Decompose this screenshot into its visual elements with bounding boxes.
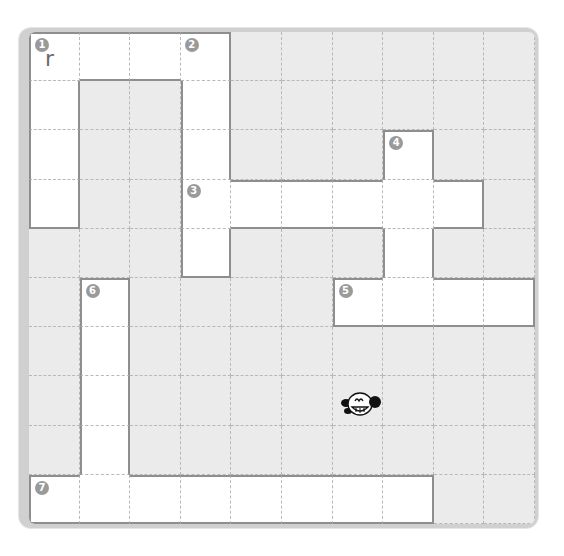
grid-cell-blocked <box>130 426 181 475</box>
grid-cell-blocked <box>282 376 333 425</box>
grid-cell-blocked <box>80 229 131 278</box>
grid-cell-blocked <box>383 376 434 425</box>
grid-cell-open[interactable] <box>29 81 80 130</box>
grid-cell-blocked <box>231 32 282 81</box>
grid-cell-blocked <box>231 327 282 376</box>
grid-cell-blocked <box>181 376 232 425</box>
grid-cell-open[interactable] <box>181 229 232 278</box>
grid-cell-open[interactable] <box>130 475 181 524</box>
grid-cell-blocked <box>333 81 384 130</box>
grid-cell-blocked <box>383 32 434 81</box>
grid-cell-blocked <box>130 376 181 425</box>
grid-cell-open[interactable]: 6 <box>80 278 131 327</box>
grid-cell-open[interactable] <box>80 475 131 524</box>
grid-cell-open[interactable] <box>282 180 333 229</box>
clue-number-badge: 2 <box>185 38 199 52</box>
grid-cell-blocked <box>29 426 80 475</box>
grid-cell-open[interactable] <box>130 32 181 81</box>
grid-cell-blocked <box>333 130 384 179</box>
grid-cell-open[interactable] <box>80 376 131 425</box>
grid-cell-blocked <box>282 130 333 179</box>
grid-cell-blocked <box>484 81 535 130</box>
grid-cell-blocked <box>484 229 535 278</box>
grid-cell-blocked <box>181 327 232 376</box>
grid-cell-blocked <box>434 475 485 524</box>
grid-cell-blocked <box>282 327 333 376</box>
grid-cell-blocked <box>484 180 535 229</box>
grid-cell-open[interactable]: 2 <box>181 32 232 81</box>
filled-letter: r <box>45 48 54 70</box>
grid-cell-open[interactable] <box>484 278 535 327</box>
grid-cell-blocked <box>434 229 485 278</box>
grid-cell-open[interactable] <box>383 278 434 327</box>
grid-cell-blocked <box>130 327 181 376</box>
grid-cell-blocked <box>484 426 535 475</box>
grid-cell-blocked <box>333 426 384 475</box>
grid-cell-open[interactable] <box>231 180 282 229</box>
grid-cell-open[interactable] <box>231 475 282 524</box>
grid-cell-open[interactable]: 7 <box>29 475 80 524</box>
grid-cell-open[interactable] <box>80 426 131 475</box>
grid-cell-open[interactable] <box>383 475 434 524</box>
grid-cell-blocked <box>333 327 384 376</box>
grid-cell-blocked <box>282 32 333 81</box>
grid-cell-open[interactable] <box>333 180 384 229</box>
grid-cell-open[interactable] <box>80 32 131 81</box>
grid-cell-open[interactable] <box>80 327 131 376</box>
grid-cell-blocked <box>231 376 282 425</box>
grid-cell-blocked <box>383 81 434 130</box>
grid-cell-blocked <box>80 81 131 130</box>
grid-cell-blocked <box>484 32 535 81</box>
grid-cell-blocked <box>434 426 485 475</box>
grid-cell-blocked <box>333 229 384 278</box>
grid-cell-blocked <box>282 81 333 130</box>
grid-cell-blocked <box>130 229 181 278</box>
grid-cell-blocked <box>29 229 80 278</box>
grid-cell-open[interactable]: 3 <box>181 180 232 229</box>
smiling-dog-face-icon <box>338 387 384 419</box>
clue-number-badge: 5 <box>339 284 353 298</box>
grid-cell-blocked <box>282 426 333 475</box>
grid-cell-blocked <box>130 180 181 229</box>
clue-number-badge: 3 <box>187 184 201 198</box>
grid-cell-blocked <box>231 229 282 278</box>
grid-cell-open[interactable] <box>29 180 80 229</box>
grid-cell-blocked <box>181 426 232 475</box>
grid-cell-blocked <box>29 376 80 425</box>
grid-cell-open[interactable]: 1r <box>29 32 80 81</box>
grid-cell-blocked <box>231 278 282 327</box>
grid-cell-blocked <box>282 278 333 327</box>
grid-cell-blocked <box>434 81 485 130</box>
grid-cell-blocked <box>130 278 181 327</box>
grid-cell-blocked <box>231 130 282 179</box>
grid-cell-open[interactable] <box>181 130 232 179</box>
grid-cell-open[interactable] <box>383 229 434 278</box>
grid-cell-blocked <box>434 327 485 376</box>
grid-cell-open[interactable]: 5 <box>333 278 384 327</box>
grid-cell-blocked <box>484 130 535 179</box>
grid-cell-open[interactable] <box>181 81 232 130</box>
grid-cell-open[interactable] <box>434 180 485 229</box>
grid-cell-blocked <box>434 376 485 425</box>
grid-cell-blocked <box>181 278 232 327</box>
grid-cell-blocked <box>484 475 535 524</box>
crossword-grid: 1r243657 <box>29 32 535 524</box>
grid-cell-blocked <box>282 229 333 278</box>
grid-cell-open[interactable] <box>383 180 434 229</box>
grid-cell-blocked <box>434 130 485 179</box>
grid-cell-open[interactable]: 4 <box>383 130 434 179</box>
grid-cell-open[interactable] <box>282 475 333 524</box>
grid-cell-blocked <box>130 81 181 130</box>
grid-cell-blocked <box>434 32 485 81</box>
grid-cell-open[interactable] <box>434 278 485 327</box>
grid-cell-blocked <box>80 130 131 179</box>
grid-cell-blocked <box>484 376 535 425</box>
grid-cell-blocked <box>130 130 181 179</box>
clue-number-badge: 6 <box>86 284 100 298</box>
grid-cell-blocked <box>231 81 282 130</box>
grid-cell-open[interactable] <box>333 475 384 524</box>
grid-cell-open[interactable] <box>181 475 232 524</box>
clue-number-badge: 4 <box>389 136 403 150</box>
grid-cell-open[interactable] <box>29 130 80 179</box>
grid-cell-blocked <box>333 32 384 81</box>
